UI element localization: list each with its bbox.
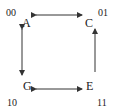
edges-layer xyxy=(0,0,114,112)
